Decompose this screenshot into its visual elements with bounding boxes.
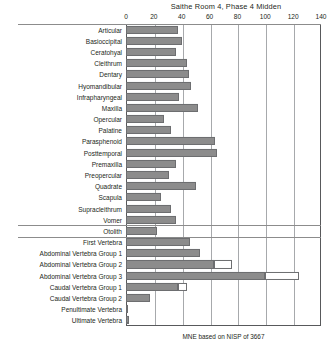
bar: [126, 149, 217, 157]
category-label: Caudal Vertebra Group 1: [50, 283, 122, 290]
bar-row: Dentary: [0, 69, 332, 80]
bar-row: Palatine: [0, 125, 332, 136]
bar: [126, 115, 164, 123]
bar-row: Parasphenoid: [0, 136, 332, 147]
bar-row: Vomer: [0, 214, 332, 225]
bar: [126, 294, 150, 302]
bar-secondary: [265, 272, 298, 280]
bar: [126, 104, 198, 112]
category-label: Articular: [98, 26, 122, 33]
category-label: Abdominal Vertebra Group 3: [40, 272, 122, 279]
bar-row: Quadrate: [0, 181, 332, 192]
bar-row: Preopercular: [0, 169, 332, 180]
x-tick-label: 120: [288, 13, 299, 20]
category-label: Palatine: [99, 127, 123, 134]
category-label: Basioccipital: [86, 37, 122, 44]
bar-row: Hyomandibular: [0, 80, 332, 91]
x-tick-label: 100: [260, 13, 271, 20]
bar-secondary: [178, 283, 188, 291]
x-axis-tick-labels: 020406080100120140: [0, 13, 332, 24]
bar-rows: ArticularBasioccipitalCeratohyalCleithru…: [0, 24, 332, 326]
category-label: Hyomandibular: [78, 82, 122, 89]
bar: [126, 283, 178, 291]
bar: [126, 137, 215, 145]
x-tick-label: 0: [124, 13, 128, 20]
bar-row: Penultimate Vertebra: [0, 304, 332, 315]
bar-row: Basioccipital: [0, 35, 332, 46]
bar: [126, 59, 187, 67]
bar: [126, 205, 171, 213]
x-tick-label: 140: [315, 13, 326, 20]
bar-row: Supracleithrum: [0, 203, 332, 214]
chart-container: Saithe Room 4, Phase 4 Midden 0204060801…: [0, 0, 332, 349]
bar: [126, 70, 189, 78]
category-label: Posttemporal: [84, 149, 122, 156]
category-label: Dentary: [99, 71, 122, 78]
category-label: Otolith: [103, 227, 122, 234]
x-tick-label: 40: [178, 13, 185, 20]
bar-row: Maxilla: [0, 102, 332, 113]
category-label: Caudal Vertebra Group 2: [50, 295, 122, 302]
category-label: Quadrate: [95, 183, 122, 190]
bar-row: Abdominal Vertebra Group 3: [0, 270, 332, 281]
category-label: Ceratohyal: [91, 48, 122, 55]
bar: [126, 126, 171, 134]
bar-row: Cleithrum: [0, 58, 332, 69]
group-separator: [18, 24, 321, 25]
bar: [126, 182, 196, 190]
bar-row: Infrapharyngeal: [0, 91, 332, 102]
bar: [126, 238, 190, 246]
bar: [126, 272, 265, 280]
category-label: Opercular: [93, 116, 122, 123]
category-label: Scapula: [99, 194, 123, 201]
bar: [126, 216, 176, 224]
category-label: Abdominal Vertebra Group 1: [40, 250, 122, 257]
category-label: Parasphenoid: [82, 138, 122, 145]
category-label: Penultimate Vertebra: [61, 306, 122, 313]
bar-row: Articular: [0, 24, 332, 35]
category-label: Ultimate Vertebra: [72, 317, 122, 324]
bar-secondary: [214, 260, 232, 268]
bar: [126, 37, 182, 45]
bar-row: Premaxilla: [0, 158, 332, 169]
x-tick-label: 20: [150, 13, 157, 20]
x-tick-label: 60: [206, 13, 213, 20]
bar-row: Scapula: [0, 192, 332, 203]
bar-row: Posttemporal: [0, 147, 332, 158]
category-label: Preopercular: [85, 171, 122, 178]
category-label: Infrapharyngeal: [77, 93, 122, 100]
bar: [126, 171, 169, 179]
bar-row: Abdominal Vertebra Group 2: [0, 259, 332, 270]
category-label: Maxilla: [102, 104, 122, 111]
bar: [126, 160, 176, 168]
bar-row: First Vertebra: [0, 237, 332, 248]
chart-title: Saithe Room 4, Phase 4 Midden: [126, 2, 326, 11]
category-label: Cleithrum: [94, 60, 122, 67]
bar: [126, 81, 191, 89]
bar-row: Opercular: [0, 113, 332, 124]
bar: [126, 316, 129, 324]
bar: [126, 249, 200, 257]
x-tick-label: 80: [234, 13, 241, 20]
category-label: Premaxilla: [92, 160, 122, 167]
category-label: Abdominal Vertebra Group 2: [40, 261, 122, 268]
bar: [126, 193, 161, 201]
bar: [126, 227, 157, 235]
bar: [126, 260, 214, 268]
bar-row: Otolith: [0, 225, 332, 236]
bar: [126, 305, 128, 313]
bar-row: Ceratohyal: [0, 46, 332, 57]
bar: [126, 48, 176, 56]
bar-row: Abdominal Vertebra Group 1: [0, 248, 332, 259]
bar-row: Caudal Vertebra Group 1: [0, 281, 332, 292]
footnote: MNE based on NISP of 3667: [126, 333, 321, 340]
category-label: Supracleithrum: [78, 205, 122, 212]
bar: [126, 26, 178, 34]
bar-row: Ultimate Vertebra: [0, 315, 332, 326]
category-label: First Vertebra: [83, 239, 122, 246]
bar-row: Caudal Vertebra Group 2: [0, 292, 332, 303]
category-label: Vomer: [103, 216, 122, 223]
bar: [126, 93, 179, 101]
